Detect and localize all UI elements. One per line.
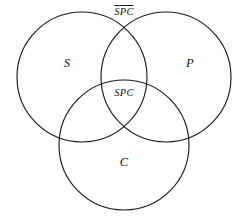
label-complement-letter-p: P: [120, 5, 127, 17]
label-set-c: C: [120, 156, 129, 169]
label-intersection-spc: SPC: [114, 88, 133, 99]
venn-diagram: S P C SPC SPC: [0, 0, 249, 222]
label-set-s: S: [64, 57, 70, 70]
circle-set-s: [17, 12, 147, 142]
venn-circles-canvas: [0, 0, 249, 222]
circle-set-c: [59, 80, 189, 210]
label-complement-spc: SPC: [114, 5, 133, 17]
label-complement-letter-c: C: [126, 5, 133, 17]
label-set-p: P: [186, 57, 194, 70]
circle-set-p: [101, 12, 231, 142]
